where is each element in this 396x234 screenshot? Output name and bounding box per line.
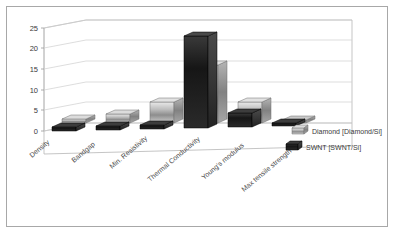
chart-screenshot: 0 5 10 15 20 25 bbox=[0, 0, 396, 234]
chart-svg: 0 5 10 15 20 25 bbox=[0, 0, 396, 234]
legend: Diamond [Diamond/Si] SWNT [SWNT/Si] bbox=[286, 125, 382, 152]
y-tick-5: 5 bbox=[34, 106, 38, 115]
y-tick-10: 10 bbox=[30, 86, 38, 95]
y-tick-20: 20 bbox=[30, 44, 38, 53]
bar-chart-3d: 0 5 10 15 20 25 bbox=[0, 0, 396, 234]
bar-diamond-density[interactable] bbox=[62, 115, 95, 123]
y-tick-25: 25 bbox=[30, 24, 38, 33]
bar-swnt-thermal-conductivity[interactable] bbox=[184, 32, 217, 128]
legend-label-diamond: Diamond [Diamond/Si] bbox=[312, 128, 382, 136]
legend-swatch-swnt[interactable] bbox=[286, 141, 302, 150]
x-axis-labels: Density Bandgap Min. Resistivity Thermal… bbox=[28, 134, 293, 193]
bar-swnt-density[interactable] bbox=[52, 123, 85, 131]
y-tick-15: 15 bbox=[30, 65, 38, 74]
bar-diamond-min-resistivity[interactable] bbox=[150, 98, 183, 123]
bar-diamond-bandgap[interactable] bbox=[106, 110, 139, 123]
x-label-density: Density bbox=[28, 138, 51, 159]
x-label-youngs-modulus: Young's modulus bbox=[200, 141, 246, 181]
bar-swnt-min-resistivity[interactable] bbox=[140, 121, 173, 129]
y-axis-labels: 0 5 10 15 20 25 bbox=[30, 24, 38, 136]
legend-label-swnt: SWNT [SWNT/Si] bbox=[306, 144, 361, 152]
y-tick-0: 0 bbox=[34, 127, 38, 136]
bar-swnt-youngs-modulus[interactable] bbox=[228, 109, 261, 127]
x-label-max-tensile-strength: Max tensile strength bbox=[240, 147, 293, 193]
x-label-thermal-conductivity: Thermal Conductivity bbox=[146, 135, 202, 184]
legend-swatch-diamond[interactable] bbox=[292, 125, 308, 134]
